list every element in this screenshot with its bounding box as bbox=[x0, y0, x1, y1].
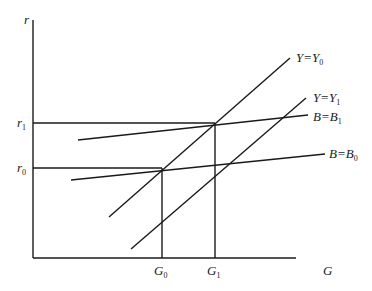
curve-b-equals-b0 bbox=[71, 154, 325, 180]
g0-label: G0 bbox=[154, 263, 167, 280]
r0-label: r0 bbox=[17, 160, 26, 177]
x-axis-label: G bbox=[323, 263, 333, 278]
label-b-equals-b0: B=B0 bbox=[329, 146, 358, 163]
diagram-canvas: r G r1 r0 G0 G1 Y=Y0 Y=Y1 B=B1 B=B0 bbox=[0, 0, 372, 291]
label-y-equals-y1: Y=Y1 bbox=[313, 90, 340, 107]
label-y-equals-y0: Y=Y0 bbox=[296, 50, 323, 67]
r1-label: r1 bbox=[17, 115, 26, 132]
y-axis-label: r bbox=[24, 12, 30, 27]
label-b-equals-b1: B=B1 bbox=[313, 109, 342, 126]
curve-y-equals-y0 bbox=[109, 58, 290, 217]
curve-b-equals-b1 bbox=[78, 115, 308, 140]
g1-label: G1 bbox=[207, 263, 220, 280]
